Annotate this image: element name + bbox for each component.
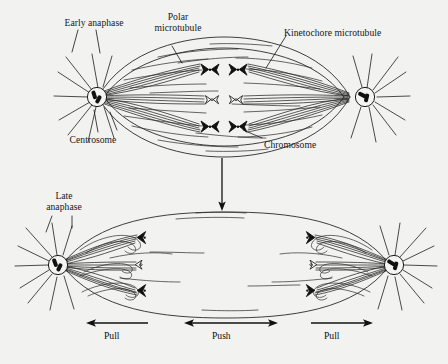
- chromosome-pair-lower: [201, 121, 247, 132]
- label-pull-right: Pull: [324, 330, 339, 341]
- label-push-center: Push: [212, 330, 231, 341]
- midzone-microtubules: [150, 212, 300, 311]
- label-late-anaphase: Lateanaphase: [32, 191, 96, 212]
- label-polar-microtubule-line1: Polar: [168, 11, 189, 22]
- kinetochore-microtubules-top: [99, 64, 349, 132]
- label-polar-microtubule-line2: microtubule: [155, 22, 202, 33]
- label-late-anaphase-line1: Late: [55, 190, 72, 201]
- centrosome-left-top: [87, 87, 106, 106]
- label-kinetochore-microtubule: Kinetochore microtubule: [284, 27, 424, 38]
- chromosome-pair-upper: [201, 64, 247, 75]
- centrosome-right-bottom: [384, 255, 403, 274]
- anaphase-diagram-figure: Early anaphase Polarmicrotubule Kinetoch…: [0, 0, 448, 364]
- chromosome-group-right: [306, 232, 317, 297]
- force-arrow-push-center: [184, 319, 278, 326]
- down-arrow-icon: [218, 158, 225, 211]
- kinetochore-microtubules-bottom-right: [315, 235, 389, 295]
- chromosome-group-left: [135, 232, 146, 297]
- force-arrow-pull-right: [311, 319, 373, 326]
- label-pull-left: Pull: [104, 330, 119, 341]
- force-arrow-pull-left: [86, 319, 148, 326]
- label-early-anaphase: Early anaphase: [46, 17, 142, 28]
- label-chromosome: Chromosome: [264, 139, 342, 150]
- label-centrosome: Centrosome: [55, 134, 131, 145]
- centrosome-left-bottom: [48, 255, 67, 274]
- centrosome-right-top: [355, 87, 374, 106]
- leader-lines-bottom: [46, 216, 72, 232]
- chromosome-pair-middle: [205, 96, 242, 104]
- label-polar-microtubule: Polarmicrotubule: [140, 12, 216, 33]
- kinetochore-microtubules-bottom-left: [63, 235, 137, 295]
- diagram-drawing: [0, 0, 448, 364]
- label-late-anaphase-line2: anaphase: [46, 201, 82, 212]
